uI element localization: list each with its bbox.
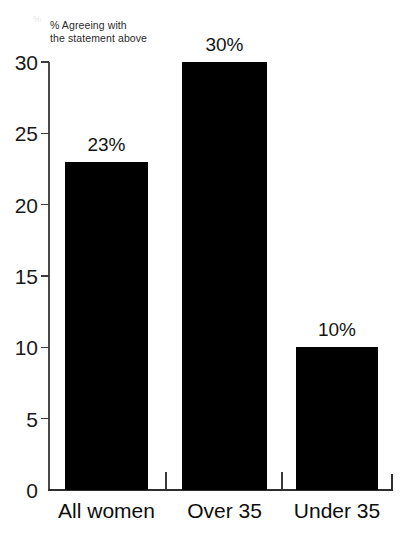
- y-axis-tick: [41, 347, 49, 349]
- bar: [65, 162, 148, 490]
- y-axis-tick: [41, 61, 49, 63]
- y-axis-caption-line-2: the statement above: [50, 32, 147, 45]
- y-axis-caption-line-1: % Agreeing with: [50, 19, 147, 32]
- bar-value-label: 10%: [296, 320, 378, 339]
- y-axis-tick-label: 30: [4, 52, 38, 73]
- y-axis-tick: [41, 275, 49, 277]
- chart-screenshot: % % Agreeing with the statement above 05…: [0, 0, 418, 540]
- y-axis-tick-label: 5: [4, 409, 38, 430]
- y-axis-tick-label: 25: [4, 123, 38, 144]
- bar-value-label: 23%: [65, 135, 148, 154]
- x-axis-tick: [281, 472, 283, 490]
- y-axis-caption: % Agreeing with the statement above: [50, 19, 147, 45]
- bar: [182, 62, 267, 490]
- y-axis-tick: [41, 204, 49, 206]
- bar-value-label: 30%: [182, 35, 267, 54]
- y-axis-tick: [41, 418, 49, 420]
- x-axis-tick: [165, 472, 167, 490]
- y-axis-tick-label: 20: [4, 195, 38, 216]
- y-axis-tick: [41, 133, 49, 135]
- x-axis-category-label: All women: [45, 500, 168, 521]
- y-axis-tick-label: 15: [4, 266, 38, 287]
- bar: [296, 347, 378, 490]
- x-axis-category-label: Under 35: [276, 500, 398, 521]
- x-axis-category-label: Over 35: [162, 500, 287, 521]
- y-axis-tick-label: 0: [4, 480, 38, 501]
- y-axis-tick-labels: 051015202530: [2, 0, 38, 540]
- x-axis-end-tick: [391, 474, 393, 490]
- bar-chart: % % Agreeing with the statement above 05…: [0, 0, 418, 540]
- y-axis-tick-label: 10: [4, 337, 38, 358]
